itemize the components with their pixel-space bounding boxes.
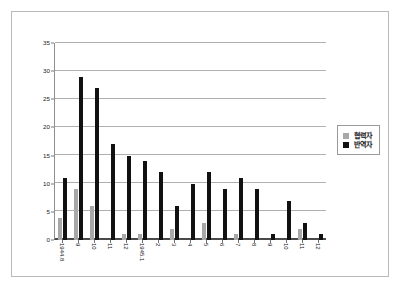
bar[interactable] [122,234,126,240]
bar-group [262,43,278,240]
black-swatch [343,142,349,148]
legend-item[interactable]: 협력자 [343,132,372,139]
x-axis-tick-label: 10 [283,243,289,250]
legend-item[interactable]: 반역자 [343,141,372,148]
bar[interactable] [138,234,142,240]
x-axis-label-cell: 5 [198,243,214,285]
x-axis-tick-label: 2 [155,243,161,246]
bar-group [134,43,150,240]
y-axis-tick-label: 25 [43,96,50,102]
bar-group [70,43,86,240]
x-axis-tick-label: 6 [219,243,225,246]
x-axis-label-cell: 3 [166,243,182,285]
y-axis-tick-label: 0 [47,237,50,243]
x-axis-tick-label: 11 [107,243,113,249]
legend-item-label: 협력자 [354,132,372,139]
bar-group [86,43,102,240]
y-axis-tick-label: 20 [43,124,50,130]
x-axis-tick-label: 1944.8 [59,243,65,261]
bar[interactable] [111,144,115,240]
bar-group [246,43,262,240]
bar-group [54,43,70,240]
x-axis-tick-label: 10 [91,243,97,250]
bar[interactable] [202,223,206,240]
bar[interactable] [223,189,227,240]
y-axis-tick-label: 30 [43,68,50,74]
bar-group [182,43,198,240]
bar[interactable] [234,234,238,240]
x-axis-label-cell: 12 [118,243,134,285]
x-axis-tick-label: 1945.1 [139,243,145,261]
bar[interactable] [298,229,302,240]
x-axis-tick-label: 9 [75,243,81,246]
x-axis-label-cell: 10 [278,243,294,285]
bar[interactable] [255,189,259,240]
bar[interactable] [271,234,275,240]
bar-group [118,43,134,240]
bar-group [230,43,246,240]
chart-legend: 협력자 반역자 [337,125,380,155]
x-axis-label-cell: 11 [102,243,118,285]
x-axis-tick-label: 4 [187,243,193,246]
x-axis-label-cell: 9 [70,243,86,285]
x-axis-label-cell: 12 [310,243,326,285]
bar[interactable] [74,189,78,240]
bar[interactable] [319,234,323,240]
x-axis-label-cell: 1944.8 [54,243,70,285]
bar[interactable] [143,161,147,240]
y-axis-tick-label: 35 [43,40,50,46]
bar[interactable] [58,218,62,241]
x-axis-tick-label: 5 [203,243,209,246]
x-axis-label-cell: 4 [182,243,198,285]
x-axis-label-cell: 9 [262,243,278,285]
x-axis-tick-label: 9 [267,243,273,246]
y-axis-tick-label: 15 [43,152,50,158]
chart-frame: 05101520253035 1944.891011121945.1234567… [11,11,389,277]
x-axis-label-cell: 8 [246,243,262,285]
bar-group [310,43,326,240]
x-axis-label-cell: 1945.1 [134,243,150,285]
x-axis-tick-label: 7 [235,243,241,246]
bar[interactable] [79,77,83,240]
y-axis-tick-label: 5 [47,209,50,215]
x-axis-tick-label: 3 [171,243,177,246]
x-axis-label-cell: 10 [86,243,102,285]
bar[interactable] [90,206,94,240]
bar-group [294,43,310,240]
y-axis-tick-label: 10 [43,181,50,187]
legend-item-label: 반역자 [354,141,372,148]
bar-group [150,43,166,240]
bar-group [214,43,230,240]
bar-group [102,43,118,240]
bar[interactable] [303,223,307,240]
bar[interactable] [287,201,291,240]
x-axis-tick-label: 12 [123,243,129,250]
x-axis-label-cell: 11 [294,243,310,285]
bar[interactable] [175,206,179,240]
x-axis-tick-label: 12 [315,243,321,250]
bar[interactable] [95,88,99,240]
bar[interactable] [191,184,195,240]
x-axis-label-cell: 6 [214,243,230,285]
x-axis-tick-label: 11 [299,243,305,249]
x-axis-label-cell: 2 [150,243,166,285]
bar-group [198,43,214,240]
bar[interactable] [170,229,174,240]
bar[interactable] [239,178,243,240]
bar[interactable] [159,172,163,240]
gray-swatch [343,133,349,139]
bar-group [278,43,294,240]
bar-series-container [54,43,326,240]
bar-group [166,43,182,240]
bar[interactable] [207,172,211,240]
bar[interactable] [127,156,131,240]
x-axis-label-cell: 7 [230,243,246,285]
x-axis-tick-label: 8 [251,243,257,246]
bar[interactable] [63,178,67,240]
x-axis-labels: 1944.891011121945.123456789101112 [54,243,326,285]
